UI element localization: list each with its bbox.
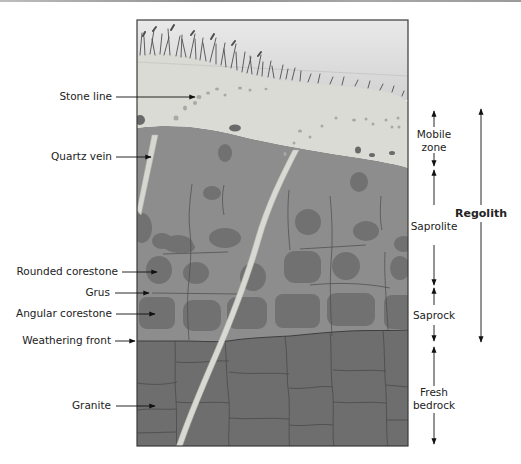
label-regolith: Regolith xyxy=(451,207,511,220)
label-mobile-zone: Mobile zone xyxy=(404,128,464,154)
label-fresh-bedrock: Fresh bedrock xyxy=(404,386,464,412)
fresh-bedrock-line1: Fresh xyxy=(404,386,464,399)
profile-panel xyxy=(132,20,414,450)
label-granite: Granite xyxy=(72,399,111,412)
label-rounded-corestone: Rounded corestone xyxy=(16,265,118,278)
label-saprock: Saprock xyxy=(404,309,464,322)
mobile-zone-line1: Mobile xyxy=(404,128,464,141)
label-angular-corestone: Angular corestone xyxy=(16,307,112,320)
label-saprolite: Saprolite xyxy=(404,220,464,233)
label-stone-line: Stone line xyxy=(59,90,112,103)
fresh-bedrock-line2: bedrock xyxy=(404,399,464,412)
mobile-zone-line2: zone xyxy=(404,141,464,154)
label-weathering-front: Weathering front xyxy=(22,334,111,347)
label-grus: Grus xyxy=(85,286,110,299)
label-quartz-vein: Quartz vein xyxy=(51,150,112,163)
